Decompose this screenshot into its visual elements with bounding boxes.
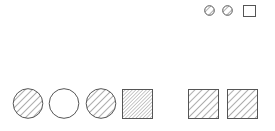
bottom-circle-empty (48, 88, 80, 119)
bottom-square-dense-hatched (122, 89, 153, 119)
bottom-circle-hatched-2 (85, 88, 117, 119)
bottom-circle-hatched-1 (12, 88, 44, 119)
top-square-empty (243, 5, 256, 17)
top-circle-hatched-2 (222, 5, 233, 16)
bottom-square-hatched-1 (188, 89, 219, 119)
bottom-square-hatched-2 (227, 89, 258, 119)
top-circle-hatched-1 (204, 5, 215, 16)
